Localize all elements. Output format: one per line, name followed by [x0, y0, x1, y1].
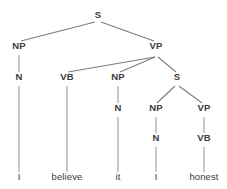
tree-edge-e-sem-vp	[179, 86, 202, 103]
tree-node-np-subject: NP	[12, 40, 26, 51]
tree-node-vp-small: VP	[197, 102, 211, 113]
tree-node-leaf-i-1: I	[18, 171, 21, 182]
tree-node-leaf-honest: honest	[189, 171, 218, 182]
edge-layer	[19, 22, 204, 172]
tree-edge-e-vp-vb	[68, 57, 155, 72]
tree-node-s-embedded: S	[174, 71, 181, 82]
tree-edge-e-s-vp	[101, 22, 154, 41]
tree-node-np-object: NP	[111, 71, 125, 82]
tree-node-leaf-believe: believe	[52, 171, 83, 182]
tree-node-vb-believe: VB	[60, 71, 74, 82]
syntax-tree-diagram: SNPVPNVBNPSNNPVPNVBIbelieveitIhonest	[0, 0, 227, 189]
tree-node-n-subject: N	[15, 71, 22, 82]
tree-node-leaf-it: it	[116, 171, 121, 182]
tree-edge-e-vp-np	[120, 57, 155, 72]
tree-node-vp-main: VP	[149, 40, 163, 51]
tree-node-n-object: N	[114, 102, 121, 113]
tree-node-s-root: S	[95, 9, 102, 20]
tree-edge-e-s-np	[21, 22, 95, 41]
tree-edge-e-vp-s	[158, 57, 176, 72]
tree-node-n-small: N	[152, 132, 159, 143]
tree-canvas: SNPVPNVBNPSNNPVPNVBIbelieveitIhonest	[0, 0, 227, 189]
tree-node-np-small: NP	[149, 102, 163, 113]
tree-edge-e-sem-np	[157, 86, 175, 103]
tree-node-vb-honest: VB	[197, 132, 211, 143]
tree-node-leaf-i-2: I	[155, 171, 158, 182]
